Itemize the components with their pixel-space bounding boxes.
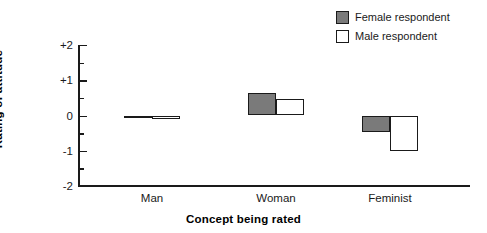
x-category-label-man: Man	[141, 192, 163, 204]
y-tick-mark	[79, 45, 87, 46]
bar-man-female	[124, 116, 152, 118]
bar-chart: Female respondent Male respondent +2+10-…	[0, 0, 487, 233]
y-tick-mark	[79, 151, 87, 152]
legend-label-male: Male respondent	[355, 30, 437, 43]
legend-item-male: Male respondent	[336, 29, 450, 44]
y-minor-tick-mark	[79, 63, 84, 64]
bar-woman-male	[276, 99, 304, 116]
legend-label-female: Female respondent	[355, 11, 450, 24]
y-tick-label: -1	[63, 145, 73, 157]
legend-swatch-male-icon	[336, 30, 349, 43]
y-tick-mark	[79, 116, 87, 117]
bar-feminist-female	[362, 116, 390, 133]
y-tick-mark	[79, 186, 87, 187]
x-axis-title: Concept being rated	[0, 213, 487, 225]
y-tick-label: +2	[60, 39, 73, 51]
x-axis-line	[78, 185, 470, 187]
y-axis-title: Rating of attitude	[0, 50, 4, 148]
y-minor-tick-mark	[79, 168, 84, 169]
y-tick-mark	[79, 80, 87, 81]
y-minor-tick-mark	[79, 133, 84, 134]
x-category-label-feminist: Feminist	[368, 192, 411, 204]
bar-feminist-male	[390, 116, 418, 152]
legend-swatch-female-icon	[336, 11, 349, 24]
legend-item-female: Female respondent	[336, 10, 450, 25]
y-tick-label: -2	[63, 180, 73, 192]
bar-woman-female	[248, 93, 276, 116]
y-tick-label: 0	[67, 110, 73, 122]
bar-man-male	[152, 116, 180, 120]
plot-area: +2+10-1-2 ManWomanFeminist	[78, 45, 470, 186]
y-tick-label: +1	[60, 74, 73, 86]
chart-legend: Female respondent Male respondent	[336, 10, 450, 44]
x-category-label-woman: Woman	[256, 192, 295, 204]
y-minor-tick-mark	[79, 98, 84, 99]
